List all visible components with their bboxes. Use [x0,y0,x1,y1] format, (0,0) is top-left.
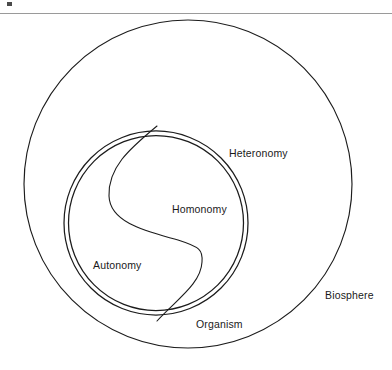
organism-circle-inner [69,136,244,311]
label-biosphere: Biosphere [325,289,374,301]
diagram-figure: Heteronomy Homonomy Autonomy Organism Bi… [0,0,392,370]
label-organism: Organism [196,318,243,330]
autonomy-homonomy-divider [109,126,202,321]
page-corner-mark [7,2,12,6]
diagram-canvas: Heteronomy Homonomy Autonomy Organism Bi… [0,0,392,370]
organism-circle-outer [64,131,248,315]
label-homonomy: Homonomy [172,203,227,215]
label-autonomy: Autonomy [93,259,142,271]
label-heteronomy: Heteronomy [229,147,288,159]
